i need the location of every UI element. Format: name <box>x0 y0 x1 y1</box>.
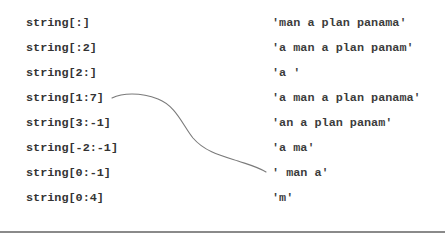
slice-result: 'a man a plan panama' <box>272 90 421 106</box>
slice-expression: string[2:] <box>26 65 97 81</box>
slice-expression: string[:2] <box>26 40 97 56</box>
slice-result: 'a ' <box>272 65 300 81</box>
slice-row: string[:] 'man a plan panama' <box>0 15 445 31</box>
slice-expression: string[0:-1] <box>26 165 111 181</box>
slice-row: string[:2] 'a man a plan panam' <box>0 40 445 56</box>
slice-row: string[2:] 'a ' <box>0 65 445 81</box>
bottom-divider <box>0 231 445 233</box>
slice-row: string[-2:-1] 'a ma' <box>0 140 445 156</box>
slice-result: 'an a plan panam' <box>272 115 392 131</box>
slice-row: string[3:-1] 'an a plan panam' <box>0 115 445 131</box>
slice-row: string[1:7] 'a man a plan panama' <box>0 90 445 106</box>
slice-result: 'a man a plan panam' <box>272 40 414 56</box>
slice-expression: string[-2:-1] <box>26 140 118 156</box>
slice-expression: string[3:-1] <box>26 115 111 131</box>
slice-result: 'a ma' <box>272 140 314 156</box>
slice-row: string[0:4] 'm' <box>0 190 445 206</box>
slice-result: 'm' <box>272 190 293 206</box>
slice-result: ' man a' <box>272 165 329 181</box>
slice-expression: string[:] <box>26 15 90 31</box>
slice-expression: string[1:7] <box>26 90 104 106</box>
slice-result: 'man a plan panama' <box>272 15 407 31</box>
slice-row: string[0:-1] ' man a' <box>0 165 445 181</box>
slice-expression: string[0:4] <box>26 190 104 206</box>
